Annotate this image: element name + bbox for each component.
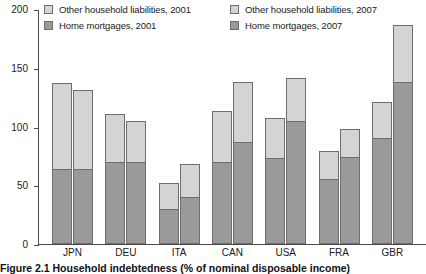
bar-group-fra: FRA — [319, 9, 360, 244]
bar-jpn-2007 — [73, 90, 93, 244]
bar-deu-2001 — [105, 114, 125, 244]
bar-segment-mortgages-fra-2001 — [319, 179, 339, 244]
bar-gbr-2001 — [372, 102, 392, 244]
bar-group-jpn: JPN — [52, 9, 93, 244]
x-axis-label-jpn: JPN — [52, 247, 93, 258]
bar-segment-mortgages-ita-2007 — [180, 197, 200, 244]
y-tick-100 — [34, 128, 38, 129]
bar-group-gbr: GBR — [372, 9, 413, 244]
bar-can-2001 — [212, 111, 232, 244]
y-axis-label-50: 50 — [17, 181, 28, 191]
y-axis-labels: 050100150200 — [0, 10, 34, 246]
bar-segment-mortgages-usa-2007 — [286, 121, 306, 244]
bar-segment-mortgages-gbr-2007 — [393, 82, 413, 244]
bar-segment-mortgages-can-2007 — [233, 142, 253, 244]
y-tick-0 — [34, 245, 38, 246]
x-axis-label-fra: FRA — [319, 247, 360, 258]
bar-group-usa: USA — [265, 9, 306, 244]
x-axis-line — [38, 244, 426, 245]
bar-fra-2001 — [319, 151, 339, 244]
x-axis-label-usa: USA — [265, 247, 306, 258]
bar-ita-2001 — [159, 183, 179, 244]
y-tick-50 — [34, 186, 38, 187]
y-axis-label-100: 100 — [11, 123, 28, 133]
bar-usa-2007 — [286, 78, 306, 244]
y-tick-150 — [34, 69, 38, 70]
bar-gbr-2007 — [393, 25, 413, 244]
plot-area: JPNDEUITACANUSAFRAGBR — [38, 10, 426, 245]
bar-segment-mortgages-ita-2001 — [159, 209, 179, 244]
bar-segment-mortgages-jpn-2007 — [73, 169, 93, 244]
bar-ita-2007 — [180, 164, 200, 244]
y-axis-label-150: 150 — [11, 64, 28, 74]
bar-segment-mortgages-gbr-2001 — [372, 138, 392, 244]
bar-segment-mortgages-jpn-2001 — [52, 169, 72, 244]
figure-household-indebtedness: Other household liabilities, 2001 Other … — [0, 0, 426, 274]
x-axis-label-gbr: GBR — [372, 247, 413, 258]
x-axis-label-ita: ITA — [159, 247, 200, 258]
bar-can-2007 — [233, 82, 253, 244]
bar-usa-2001 — [265, 118, 285, 244]
bar-segment-mortgages-deu-2007 — [126, 162, 146, 244]
bar-fra-2007 — [340, 129, 360, 244]
bar-segment-mortgages-deu-2001 — [105, 162, 125, 244]
y-axis-line — [38, 10, 39, 246]
figure-caption: Figure 2.1 Household indebtedness (% of … — [0, 262, 426, 274]
y-axis-label-200: 200 — [11, 5, 28, 15]
x-axis-label-deu: DEU — [105, 247, 146, 258]
bar-group-can: CAN — [212, 9, 253, 244]
bar-segment-mortgages-can-2001 — [212, 162, 232, 244]
x-axis-label-can: CAN — [212, 247, 253, 258]
y-axis-label-0: 0 — [22, 240, 28, 250]
y-tick-200 — [34, 10, 38, 11]
bar-group-ita: ITA — [159, 9, 200, 244]
bar-deu-2007 — [126, 121, 146, 244]
bar-segment-mortgages-usa-2001 — [265, 158, 285, 244]
bar-segment-mortgages-fra-2007 — [340, 157, 360, 244]
bar-group-deu: DEU — [105, 9, 146, 244]
bar-jpn-2001 — [52, 83, 72, 244]
